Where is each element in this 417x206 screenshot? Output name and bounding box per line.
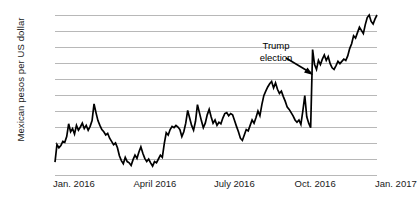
x-tick-label: July 2016 bbox=[214, 178, 255, 189]
x-tick-label: April 2016 bbox=[134, 178, 177, 189]
x-tick-label: Jan. 2016 bbox=[53, 178, 95, 189]
x-tick-label: Jan. 2017 bbox=[375, 178, 417, 189]
x-tick-label: Oct. 2016 bbox=[295, 178, 336, 189]
series-line bbox=[55, 15, 377, 175]
annotation-arrow-icon bbox=[285, 55, 325, 83]
annotation-line-1: Trump bbox=[243, 40, 309, 52]
x-axis-tick-labels: Jan. 2016April 2016July 2016Oct. 2016Jan… bbox=[55, 178, 385, 196]
axis-baseline bbox=[55, 175, 377, 176]
y-axis-title: Mexican pesos per US dollar bbox=[15, 0, 26, 160]
plot-area bbox=[55, 15, 377, 175]
